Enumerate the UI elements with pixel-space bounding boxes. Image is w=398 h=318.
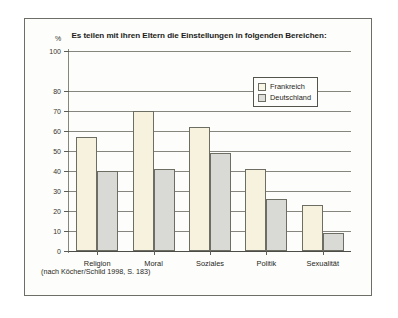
legend-item: Deutschland [258, 92, 311, 103]
legend-label: Deutschland [270, 93, 311, 102]
y-axis-tick [64, 251, 69, 252]
bar-deutschland-religion [97, 171, 118, 251]
x-axis-category-label: Politik [257, 259, 277, 268]
source-note: (nach Köcher/Schild 1998, S. 183) [41, 267, 150, 276]
y-axis-tick-label: 50 [35, 148, 61, 155]
bar-frankreich-moral [133, 111, 154, 251]
y-axis-tick [64, 91, 69, 92]
gridline [69, 111, 351, 112]
y-axis-labels: 01020304050607080100 [25, 19, 61, 297]
legend-item: Frankreich [258, 81, 311, 92]
y-axis-tick [64, 191, 69, 192]
bar-frankreich-sexualität [302, 205, 323, 251]
bar-deutschland-soziales [210, 153, 231, 251]
figure-frame: Es teilen mit ihren Eltern die Einstellu… [24, 18, 372, 296]
x-axis-category-label: Sexualität [307, 259, 339, 268]
y-axis-tick-label: 10 [35, 228, 61, 235]
legend-swatch-icon [258, 94, 266, 102]
bar-frankreich-politik [245, 169, 266, 251]
y-axis-tick [64, 151, 69, 152]
x-axis-category-label: Soziales [196, 259, 224, 268]
y-axis-tick-label: 80 [35, 88, 61, 95]
legend-swatch-icon [258, 83, 266, 91]
bar-deutschland-sexualität [323, 233, 344, 251]
y-axis-tick-label: 100 [35, 48, 61, 55]
y-axis-tick [64, 231, 69, 232]
y-axis-tick [64, 171, 69, 172]
chart-legend: FrankreichDeutschland [253, 77, 318, 107]
y-axis-tick [64, 51, 69, 52]
y-axis-tick-label: 30 [35, 188, 61, 195]
bar-frankreich-soziales [189, 127, 210, 251]
x-axis-tick [266, 251, 267, 255]
y-axis-tick-label: 40 [35, 168, 61, 175]
legend-label: Frankreich [270, 82, 305, 91]
y-axis-tick-label: 0 [35, 248, 61, 255]
x-axis-tick [210, 251, 211, 255]
bar-deutschland-politik [266, 199, 287, 251]
gridline [69, 131, 351, 132]
chart-title: Es teilen mit ihren Eltern die Einstellu… [25, 31, 373, 40]
bar-deutschland-moral [154, 169, 175, 251]
bar-frankreich-religion [76, 137, 97, 251]
y-axis-tick-label: 70 [35, 108, 61, 115]
gridline [69, 51, 351, 52]
y-axis-tick-label: 60 [35, 128, 61, 135]
x-axis-tick [97, 251, 98, 255]
x-axis-tick [154, 251, 155, 255]
y-axis-tick [64, 131, 69, 132]
y-axis-tick [64, 211, 69, 212]
x-axis-tick [323, 251, 324, 255]
gridline [69, 151, 351, 152]
y-axis-tick [64, 111, 69, 112]
y-axis-tick-label: 20 [35, 208, 61, 215]
